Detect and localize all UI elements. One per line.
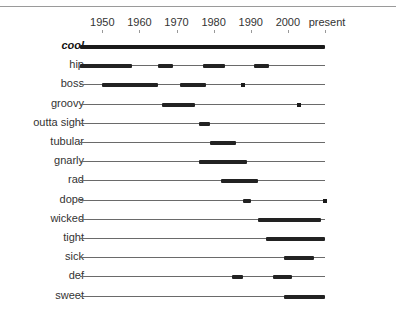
timeline-baseline bbox=[80, 200, 325, 201]
usage-point-marker bbox=[297, 103, 301, 107]
usage-period-bar bbox=[210, 141, 236, 145]
x-tick-label: 1970 bbox=[164, 16, 188, 28]
usage-period-bar bbox=[243, 199, 250, 203]
usage-period-bar bbox=[203, 64, 225, 68]
top-rule bbox=[0, 6, 396, 7]
x-tick-mark bbox=[214, 30, 215, 33]
x-tick-label: 1980 bbox=[201, 16, 225, 28]
x-tick-mark bbox=[139, 30, 140, 33]
x-tick-mark bbox=[288, 30, 289, 33]
x-tick-mark bbox=[177, 30, 178, 33]
usage-period-bar bbox=[254, 64, 269, 68]
x-tick-label: 1990 bbox=[239, 16, 263, 28]
usage-period-bar bbox=[284, 295, 325, 299]
x-tick-mark bbox=[325, 30, 326, 33]
timeline-baseline bbox=[80, 104, 325, 105]
usage-point-marker bbox=[323, 199, 327, 203]
usage-period-bar bbox=[162, 103, 195, 107]
x-tick-label: present bbox=[309, 16, 346, 28]
row-label: sweet bbox=[55, 289, 84, 301]
row-label: tubular bbox=[50, 135, 84, 147]
x-tick-label: 1950 bbox=[90, 16, 114, 28]
x-tick-label: 1960 bbox=[127, 16, 151, 28]
usage-point-marker bbox=[241, 83, 245, 87]
row-label: wicked bbox=[50, 212, 84, 224]
usage-period-bar bbox=[232, 275, 243, 279]
usage-period-bar bbox=[80, 45, 325, 49]
usage-period-bar bbox=[80, 64, 132, 68]
usage-period-bar bbox=[284, 256, 314, 260]
x-tick-mark bbox=[251, 30, 252, 33]
usage-period-bar bbox=[180, 83, 206, 87]
usage-period-bar bbox=[273, 275, 292, 279]
usage-period-bar bbox=[258, 218, 321, 222]
usage-period-bar bbox=[102, 83, 158, 87]
row-label: dope bbox=[60, 193, 84, 205]
row-label: outta sight bbox=[33, 116, 84, 128]
row-label: tight bbox=[63, 231, 84, 243]
usage-period-bar bbox=[266, 237, 325, 241]
x-tick-label: 2000 bbox=[276, 16, 300, 28]
timeline-baseline bbox=[80, 180, 325, 181]
x-tick-mark bbox=[102, 30, 103, 33]
row-label: groovy bbox=[51, 97, 84, 109]
usage-period-bar bbox=[199, 122, 210, 126]
usage-period-bar bbox=[221, 179, 258, 183]
timeline-baseline bbox=[80, 142, 325, 143]
usage-period-bar bbox=[199, 160, 247, 164]
usage-period-bar bbox=[158, 64, 173, 68]
